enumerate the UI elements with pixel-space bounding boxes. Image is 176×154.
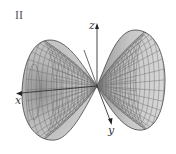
panel-label: II: [15, 8, 23, 22]
x-axis-label: x: [15, 94, 22, 107]
y-axis-label: y: [107, 124, 115, 137]
double-cone-figure: II z x y: [0, 0, 176, 154]
z-axis-label: z: [88, 19, 95, 32]
left-cone-lobe: [22, 38, 97, 142]
right-cone-lobe: [97, 28, 165, 132]
z-axis: [95, 23, 99, 88]
